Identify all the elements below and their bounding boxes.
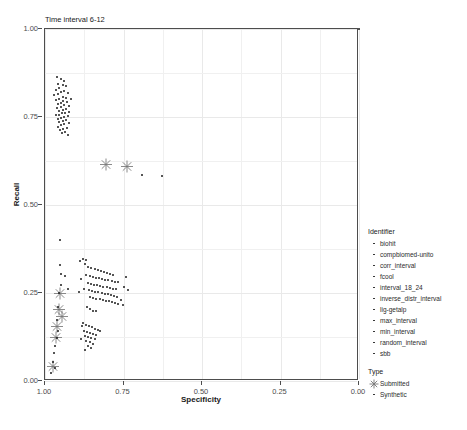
y-tick-mark [38,380,42,381]
y-tick-label: 0.75 [4,112,38,121]
legend-item-label: max_interval [380,315,417,326]
legend-item[interactable]: Submitted [368,378,467,389]
data-point-synthetic [84,349,86,351]
data-point-synthetic [85,274,87,276]
data-point-synthetic [88,289,90,291]
data-point-synthetic [57,330,59,332]
data-point-synthetic [89,341,91,343]
legend-item[interactable]: lig-getalp [368,304,467,315]
data-point-synthetic [70,98,72,100]
data-point-synthetic [90,283,92,285]
dot-marker-icon [368,337,380,348]
data-point-synthetic [68,111,70,113]
data-point-synthetic [99,285,101,287]
data-point-synthetic [68,122,70,124]
data-point-synthetic [81,325,83,327]
legend-item[interactable]: random_interval [368,337,467,348]
data-point-synthetic [82,322,84,324]
data-point-synthetic [58,121,60,123]
legend-title: Type [368,368,467,375]
gridline-vertical-minor [84,29,85,379]
y-axis-title: Recall [12,165,21,225]
data-point-synthetic [57,83,59,85]
dot-marker-icon [368,326,380,337]
data-point-synthetic [161,175,163,177]
legend-item-label: lig-getalp [380,304,406,315]
data-point-synthetic [56,319,58,321]
data-point-synthetic [59,129,61,131]
data-point-synthetic [62,84,64,86]
data-point-synthetic [56,107,58,109]
gridline-vertical [45,29,46,379]
data-point-synthetic [62,128,64,130]
legend-item[interactable]: fcool [368,271,467,282]
data-point-synthetic [84,263,86,265]
dot-marker-icon [368,238,380,249]
data-point-synthetic [58,110,60,112]
legend-item[interactable]: biohit [368,238,467,249]
y-tick-label: 0.50 [4,200,38,209]
data-point-synthetic [108,300,110,302]
legend-item-label: biohit [380,238,396,249]
x-tick-mark [123,381,124,385]
data-point-synthetic [141,174,143,176]
data-point-synthetic [93,284,95,286]
legend-item[interactable]: min_interval [368,326,467,337]
gridline-vertical [281,29,282,379]
data-point-synthetic [92,343,94,345]
x-tick-mark [280,381,281,385]
data-point-synthetic [67,115,69,117]
data-point-submitted [50,319,63,337]
data-point-synthetic [56,337,58,339]
data-point-synthetic [62,100,64,102]
data-point-synthetic [109,287,111,289]
legend-item[interactable]: max_interval [368,315,467,326]
data-point-synthetic [79,260,81,262]
data-point-synthetic [101,292,103,294]
data-point-synthetic [82,258,84,260]
y-tick-mark [38,292,42,293]
dot-marker-icon [368,293,380,304]
data-point-synthetic [92,276,94,278]
data-point-synthetic [127,289,129,291]
data-point-synthetic [63,104,65,106]
data-point-synthetic [54,345,56,347]
x-tick-mark [201,381,202,385]
data-point-synthetic [60,91,62,93]
data-point-synthetic [87,336,89,338]
data-point-synthetic [102,299,104,301]
data-point-synthetic [358,28,360,30]
gridline-horizontal [45,117,357,118]
data-point-synthetic [56,76,58,78]
data-point-synthetic [59,264,61,266]
data-point-synthetic [90,267,92,269]
dot-marker-icon [368,389,380,400]
x-tick-mark [358,381,359,385]
data-point-synthetic [111,280,113,282]
legend-item[interactable]: corr_interval [368,260,467,271]
legend-item[interactable]: Synthetic [368,389,467,400]
data-point-synthetic [63,123,65,125]
data-point-synthetic [84,335,86,337]
legend-item[interactable]: compbiomed-unito [368,249,467,260]
dot-marker-icon [368,260,380,271]
data-point-synthetic [94,291,96,293]
y-tick-mark [38,204,42,205]
legend-item[interactable]: sbb [368,348,467,359]
legend-item-label: compbiomed-unito [380,249,433,260]
data-point-synthetic [65,119,67,121]
legend-item[interactable]: inverse_distr_interval [368,293,467,304]
data-point-synthetic [106,272,108,274]
data-point-synthetic [66,101,68,103]
data-point-synthetic [57,93,59,95]
gridline-vertical-minor [320,29,321,379]
legend-item[interactable]: interval_18_24 [368,282,467,293]
data-point-synthetic [57,118,59,120]
gridline-vertical [202,29,203,379]
data-point-synthetic [55,99,57,101]
data-point-synthetic [95,298,97,300]
gridline-horizontal-minor [45,249,357,250]
legend-item-label: random_interval [380,337,427,348]
data-point-synthetic [64,131,66,133]
data-point-synthetic [112,288,114,290]
